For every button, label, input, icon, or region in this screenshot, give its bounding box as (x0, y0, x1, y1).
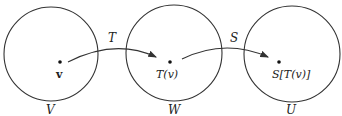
map-T-arrow (68, 49, 156, 62)
set-V: v V (4, 7, 98, 116)
point-v-dot (58, 60, 62, 64)
set-W-label: W (168, 103, 182, 116)
map-S: S (182, 31, 268, 59)
set-W-circle (126, 5, 222, 101)
point-STv-label: S[T(v)] (272, 68, 311, 81)
map-S-label: S (230, 31, 238, 45)
set-U-label: U (286, 103, 297, 116)
composition-diagram: v V T(v) W S[T(v)] U T S (0, 0, 342, 116)
set-W: T(v) W (126, 5, 222, 116)
point-Tv-dot (168, 60, 172, 64)
set-U-circle (244, 6, 340, 102)
point-v-label: v (55, 68, 63, 81)
set-V-circle (4, 7, 98, 101)
map-T: T (68, 31, 156, 62)
set-U: S[T(v)] U (244, 6, 340, 116)
set-V-label: V (46, 103, 56, 116)
point-STv-dot (277, 60, 281, 64)
map-S-arrow (182, 48, 268, 59)
point-Tv-label: T(v) (156, 68, 178, 81)
map-T-label: T (108, 31, 117, 45)
